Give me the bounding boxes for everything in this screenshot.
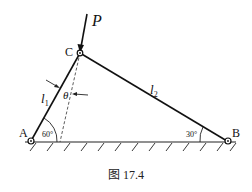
arrowhead-icon	[54, 84, 60, 88]
member-l1	[31, 53, 80, 141]
point-b-label: B	[232, 126, 240, 140]
arrowhead-icon	[72, 92, 77, 96]
ground	[25, 142, 236, 151]
theta-label: θ	[63, 89, 69, 101]
angle-30-label: 30°	[186, 130, 197, 139]
angle-arc-30	[200, 127, 203, 142]
point-a-label: A	[19, 126, 28, 140]
truss-diagram: P C A B l1 l2 θ 60° 30°	[0, 0, 252, 192]
pin-b-center	[227, 140, 229, 142]
member-l2-label: l2	[150, 82, 158, 99]
force-p-arrow	[81, 14, 87, 47]
force-label: P	[91, 12, 102, 29]
pin-a-center	[30, 140, 32, 142]
figure-caption: 图 17.4	[0, 165, 252, 183]
member-l1-label: l1	[41, 91, 49, 108]
pin-c-center	[79, 52, 81, 54]
point-c-label: C	[65, 45, 73, 59]
figure-17-4: P C A B l1 l2 θ 60° 30° 图 17.4	[0, 0, 252, 192]
angle-60-label: 60°	[42, 130, 53, 139]
